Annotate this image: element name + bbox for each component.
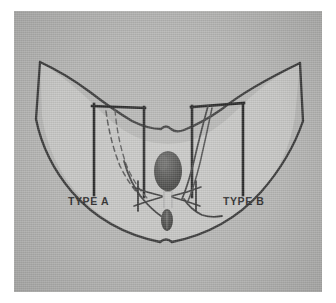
pelvic-outline-left-flank — [36, 62, 40, 119]
pelvic-outline-bottom-notch — [160, 240, 172, 243]
label-type-b: TYPE B — [223, 195, 265, 207]
uterus-highlight — [158, 155, 168, 171]
anatomical-diagram: TYPE A TYPE B — [14, 11, 322, 292]
label-type-a: TYPE A — [68, 195, 109, 207]
figure-root: TYPE A TYPE B — [0, 0, 336, 303]
uterus-body — [154, 151, 182, 191]
resection-bracket-type-b — [191, 103, 244, 107]
pelvic-outline-right-flank — [300, 63, 303, 121]
resection-bracket-type-a — [92, 106, 145, 108]
photographic-plate: TYPE A TYPE B — [14, 11, 322, 292]
